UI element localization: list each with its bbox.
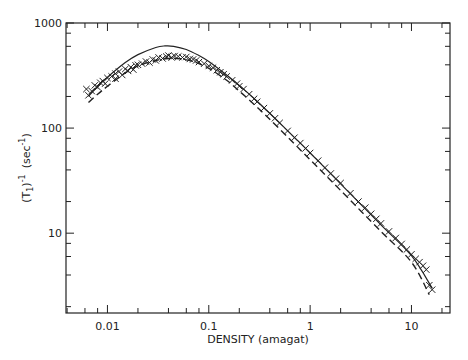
x-marker-icon — [236, 83, 242, 89]
x-tick-label: 0.01 — [95, 320, 120, 333]
x-tick-label: 0.1 — [200, 320, 218, 333]
x-marker-icon — [291, 135, 297, 141]
x-marker-icon — [254, 99, 260, 105]
x-tick-label: 10 — [404, 320, 418, 333]
x-marker-icon — [307, 150, 313, 156]
x-marker-icon — [276, 120, 282, 126]
x-marker-icon — [355, 198, 361, 204]
x-marker-icon — [125, 68, 131, 74]
chart: 0.010.1110101001000 DENSITY (amagat) (T1… — [0, 0, 468, 360]
x-marker-icon — [284, 128, 290, 134]
y-axis-title-text: (T1)-1(sec-1) — [18, 133, 35, 203]
plot-border — [66, 23, 450, 313]
x-marker-icon — [347, 190, 353, 196]
x-axis-title: DENSITY (amagat) — [207, 333, 309, 346]
solid-theory-curve — [88, 46, 432, 288]
series-data-markers — [83, 52, 435, 293]
y-tick-label: 1000 — [34, 17, 62, 30]
y-tick-label: 100 — [41, 122, 62, 135]
dashed-theory-curve — [88, 58, 429, 294]
series-solid-line — [88, 46, 432, 288]
x-marker-icon — [119, 72, 125, 78]
x-tick-label: 1 — [307, 320, 314, 333]
x-marker-icon — [423, 266, 429, 272]
x-marker-icon — [85, 92, 91, 98]
x-marker-icon — [393, 235, 399, 241]
y-tick-label: 10 — [48, 227, 62, 240]
axis-ticks — [66, 23, 450, 313]
y-axis-title: (T1)-1(sec-1) — [18, 133, 35, 203]
x-marker-icon — [362, 204, 368, 210]
series-dashed-line — [88, 58, 429, 294]
x-marker-icon — [315, 157, 321, 163]
x-marker-icon — [102, 80, 108, 86]
x-marker-icon — [322, 164, 328, 170]
plot-frame — [66, 23, 450, 313]
x-marker-icon — [337, 180, 343, 186]
x-marker-icon — [83, 86, 89, 92]
axis-tick-labels: 0.010.1110101001000 — [34, 17, 418, 333]
x-marker-icon — [261, 105, 267, 111]
